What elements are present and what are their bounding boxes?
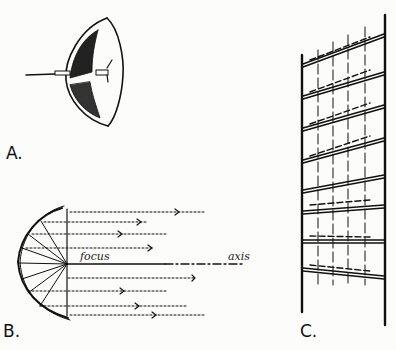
antenna-rack — [302, 15, 385, 325]
panel-label-a: A. — [6, 143, 23, 163]
panel-label-c: C. — [300, 321, 317, 341]
axis-annotation: axis — [228, 250, 250, 263]
figure-canvas: A. B. C. focus axis — [0, 0, 396, 350]
reflector-dish-icon — [26, 18, 123, 126]
focus-annotation: focus — [80, 250, 110, 263]
figure-drawing — [0, 0, 396, 350]
parabola-diagram — [18, 206, 242, 320]
panel-label-b: B. — [3, 321, 20, 341]
